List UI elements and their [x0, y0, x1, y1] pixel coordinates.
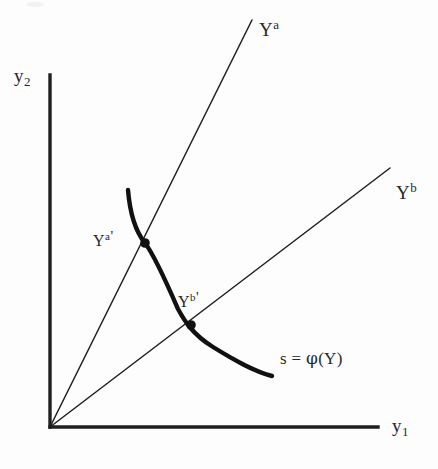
ray-yb-line	[50, 168, 390, 427]
economics-figure: y2 y1 Ya Yb Ya' Yb' s = φ(Y)	[0, 0, 438, 469]
curve-equation-lhs: s =	[280, 349, 306, 368]
curve-s-phi-y	[128, 190, 272, 376]
point-ya-prime-label-prime: '	[110, 228, 113, 244]
marker-yb-prime	[186, 320, 196, 330]
ray-ya-label: Ya	[259, 18, 279, 39]
ray-ya-line	[50, 20, 252, 427]
y-axis-label-subscript: 2	[24, 74, 31, 89]
phi-symbol: φ	[306, 348, 318, 368]
figure-canvas	[0, 0, 438, 469]
y-axis-label-base: y	[14, 65, 24, 86]
y-axis-label: y2	[14, 66, 31, 88]
point-yb-prime-label-superscript: b	[190, 291, 196, 303]
x-axis-label-base: y	[392, 415, 402, 436]
ray-ya-label-base: Y	[259, 19, 273, 40]
point-yb-prime-label: Yb'	[178, 290, 199, 310]
point-ya-prime-label-base: Y	[93, 232, 105, 249]
marker-ya-prime	[140, 238, 150, 248]
point-yb-prime-label-base: Y	[178, 293, 190, 310]
curve-equation-rhs: (Y)	[318, 349, 343, 368]
point-ya-prime-label: Ya'	[93, 229, 113, 249]
x-axis-label-subscript: 1	[402, 424, 409, 439]
point-yb-prime-label-prime: '	[196, 289, 199, 305]
ray-ya-label-superscript: a	[273, 17, 279, 32]
ray-yb-label-superscript: b	[410, 180, 417, 195]
ray-yb-label: Yb	[396, 181, 417, 202]
x-axis-label: y1	[392, 416, 409, 438]
ray-yb-label-base: Y	[396, 182, 410, 203]
curve-equation-label: s = φ(Y)	[280, 350, 343, 367]
